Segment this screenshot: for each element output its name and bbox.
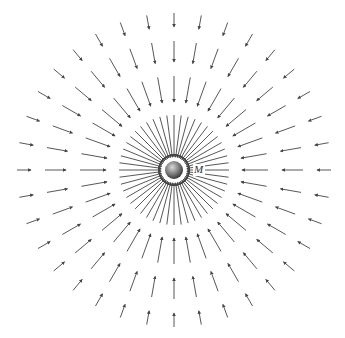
field-arrow (73, 280, 82, 291)
field-arrow (110, 264, 121, 282)
field-arrow (266, 50, 275, 61)
field-arrow (120, 23, 125, 36)
field-arrow (27, 116, 40, 121)
field-arrow (127, 229, 140, 252)
field-arrow (233, 123, 256, 136)
field-arrow (257, 87, 273, 101)
field-arrow (184, 178, 217, 204)
field-arrow (93, 204, 116, 217)
field-arrow (211, 49, 218, 69)
field-arrow (298, 92, 310, 99)
field-arrow (276, 207, 296, 214)
field-arrow (54, 262, 65, 271)
field-arrow (268, 224, 286, 235)
field-arrow (208, 229, 221, 252)
field-arrow (186, 237, 191, 263)
field-arrow (152, 276, 156, 297)
field-arrow (152, 43, 156, 64)
field-arrow (167, 183, 173, 225)
field-arrow (91, 71, 105, 87)
field-arrow (130, 49, 137, 69)
field-arrow (315, 143, 329, 146)
field-arrow (53, 207, 73, 214)
field-arrow (298, 242, 310, 249)
field-arrow (47, 148, 68, 152)
field-arrow (182, 126, 208, 159)
field-arrow (121, 173, 161, 184)
field-arrow (218, 98, 235, 118)
field-arrow (96, 294, 103, 306)
field-arrow (127, 89, 140, 112)
field-arrow (280, 148, 301, 152)
field-arrow (218, 222, 235, 242)
field-arrow (184, 137, 217, 163)
field-arrow (53, 126, 73, 133)
field-arrow (75, 239, 91, 253)
field-arrow (114, 98, 131, 118)
field-arrow (315, 195, 329, 198)
point-mass-sphere (165, 161, 183, 179)
field-arrow (246, 294, 253, 306)
field-arrow (226, 214, 246, 231)
field-arrow (211, 272, 218, 292)
field-arrow (38, 242, 50, 249)
field-arrow (93, 123, 116, 136)
field-arrow (102, 110, 122, 127)
field-arrow (158, 237, 163, 263)
field-arrow (243, 253, 257, 269)
field-arrow (177, 183, 188, 224)
field-arrow (147, 311, 150, 325)
field-arrow (81, 182, 107, 187)
field-arrow (147, 15, 150, 29)
field-arrow (158, 77, 163, 103)
field-arrow (96, 34, 103, 46)
field-arrow (246, 34, 253, 46)
field-arrow (187, 173, 228, 184)
field-arrow (208, 89, 221, 112)
field-arrow (167, 116, 173, 158)
field-arrow (280, 189, 301, 193)
field-arrow (47, 189, 68, 193)
field-arrow (142, 82, 151, 106)
field-arrow (86, 138, 110, 147)
field-arrow (110, 58, 121, 76)
field-arrow (176, 183, 182, 225)
field-arrow (91, 253, 105, 269)
field-arrow (102, 214, 122, 231)
field-arrow (141, 180, 167, 213)
field-arrow (114, 222, 131, 242)
field-arrow (186, 77, 191, 103)
field-arrow (120, 304, 125, 317)
field-arrow (284, 69, 295, 78)
field-arrow (182, 180, 208, 213)
field-arrow (199, 15, 202, 29)
field-arrow (197, 234, 206, 258)
field-arrow (199, 311, 202, 325)
field-arrow (308, 219, 321, 224)
field-arrow (266, 280, 275, 291)
field-arrow (228, 58, 239, 76)
field-arrow (54, 69, 65, 78)
field-arrow (27, 219, 40, 224)
field-arrow (19, 143, 33, 146)
field-arrow (228, 264, 239, 282)
field-arrow (130, 272, 137, 292)
field-arrow (284, 262, 295, 271)
field-arrow (177, 117, 188, 157)
field-arrow (233, 204, 256, 217)
field-arrow (226, 110, 246, 127)
field-arrow (120, 163, 162, 169)
field-arrow (19, 195, 33, 198)
field-arrow (160, 117, 171, 157)
field-arrow (160, 183, 171, 224)
field-arrow (238, 193, 262, 202)
field-arrow (62, 106, 80, 117)
field-arrow (197, 82, 206, 106)
field-arrow (241, 182, 267, 187)
field-arrow (193, 276, 197, 297)
field-arrow (86, 193, 110, 202)
field-arrow (223, 23, 228, 36)
field-arrow (73, 50, 82, 61)
field-arrow (276, 126, 296, 133)
field-arrow (243, 71, 257, 87)
